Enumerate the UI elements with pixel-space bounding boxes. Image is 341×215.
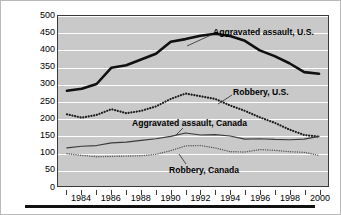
- x-axis-tick-label: 1998: [273, 192, 307, 204]
- series-label: Aggravated assault, Canada: [132, 118, 247, 128]
- y-axis-tick-label: 450: [25, 28, 55, 37]
- x-axis-tick-label: 1986: [94, 192, 128, 204]
- series-label: Robbery, U.S.: [233, 87, 289, 97]
- x-axis-tick-labels: 198419861988199019921994199619982000: [57, 190, 329, 204]
- y-axis-tick-labels: 050100150200250300350400450500: [25, 1, 55, 215]
- series-layer: [58, 16, 328, 186]
- y-axis-tick-label: 200: [25, 114, 55, 123]
- x-axis-tick-label: 1994: [213, 192, 247, 204]
- y-axis-tick-label: 100: [25, 148, 55, 157]
- y-axis-tick-label: 350: [25, 62, 55, 71]
- y-axis-tick-label: 400: [25, 45, 55, 54]
- y-axis-tick-label: 150: [25, 131, 55, 140]
- y-axis-tick-label: 0: [25, 183, 55, 192]
- plot-area: [57, 15, 329, 187]
- x-axis-tick-label: 1990: [154, 192, 188, 204]
- series-label: Aggravated assault, U.S.: [213, 27, 314, 37]
- series-label: Robbery, Canada: [169, 165, 239, 175]
- series-line: [67, 34, 319, 91]
- series-line: [67, 94, 319, 137]
- series-line: [67, 146, 319, 157]
- y-axis-tick-label: 50: [25, 165, 55, 174]
- x-axis-tick-label: 2000: [303, 192, 337, 204]
- chart-figure: Rate per 100,000 population 050100150200…: [0, 0, 341, 215]
- y-axis-tick-label: 300: [25, 79, 55, 88]
- y-axis-tick-label: 500: [25, 11, 55, 20]
- bottom-rule: [25, 205, 315, 208]
- y-axis-tick-label: 250: [25, 97, 55, 106]
